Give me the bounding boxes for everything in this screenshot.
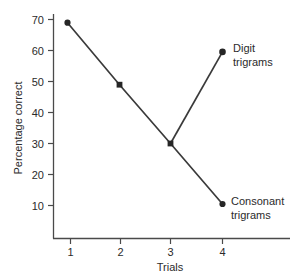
series-line-digit-trigrams (171, 52, 223, 144)
chart-figure: 70 60 50 40 30 20 10 1 2 3 4 Trials Perc… (0, 0, 304, 280)
y-tick-label-10: 10 (32, 200, 44, 212)
data-point-consonant-trial-2 (117, 82, 123, 88)
y-tick-label-60: 60 (32, 45, 44, 57)
data-point-digit-trial-4 (219, 49, 226, 56)
x-axis-title: Trials (157, 261, 184, 273)
series-label-digit-trigrams-line2: trigrams (233, 56, 273, 68)
x-tick-label-2: 2 (117, 246, 123, 258)
y-tick-label-50: 50 (32, 76, 44, 88)
chart-plot-area: 70 60 50 40 30 20 10 1 2 3 4 Trials Perc… (0, 0, 304, 280)
series-line-consonant-trigrams (68, 23, 223, 204)
y-tick-label-70: 70 (32, 14, 44, 26)
x-tick-label-4: 4 (219, 246, 225, 258)
y-tick-label-20: 20 (32, 169, 44, 181)
x-tick-label-3: 3 (167, 246, 173, 258)
series-label-consonant-trigrams-line1: Consonant (231, 195, 284, 207)
series-label-digit-trigrams-line1: Digit (233, 42, 255, 54)
x-tick-label-1: 1 (67, 246, 73, 258)
y-axis-title: Percentage correct (12, 82, 24, 175)
data-point-consonant-trial-4 (219, 201, 225, 207)
data-point-consonant-trial-1 (64, 20, 70, 26)
data-point-consonant-trial-3 (168, 141, 174, 147)
series-label-consonant-trigrams-line2: trigrams (231, 209, 271, 221)
y-tick-label-40: 40 (32, 107, 44, 119)
y-tick-label-30: 30 (32, 138, 44, 150)
